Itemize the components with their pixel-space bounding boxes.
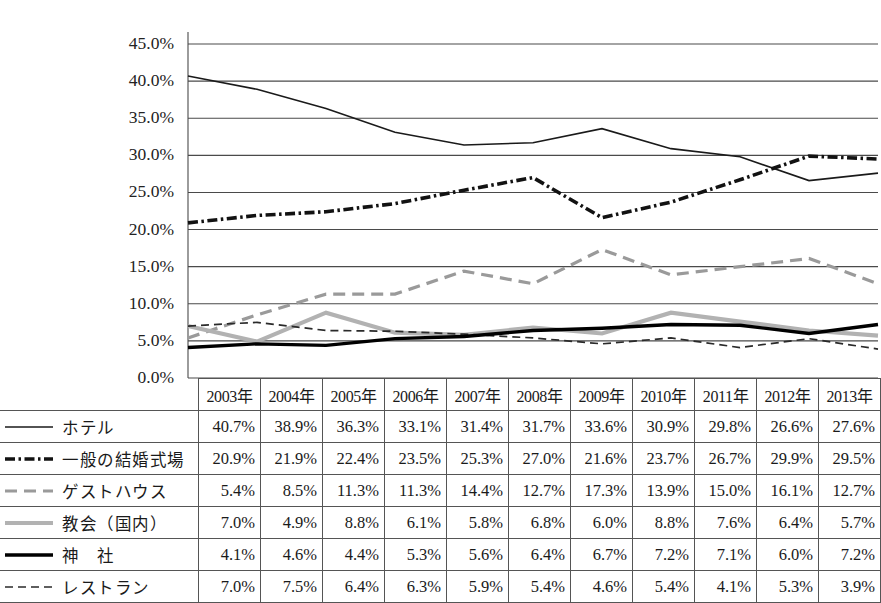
table-row: ホテル40.7%38.9%36.3%33.1%31.4%31.7%33.6%30… — [0, 411, 881, 443]
table-cell: 5.4% — [509, 571, 571, 603]
table-cell: 21.6% — [571, 443, 633, 475]
table-row: ゲストハウス5.4%8.5%11.3%11.3%14.4%12.7%17.3%1… — [0, 475, 881, 507]
legend-line-swatch — [5, 452, 53, 466]
table-cell: 3.9% — [819, 571, 881, 603]
legend-entry-4[interactable]: 神 社 — [0, 539, 199, 571]
table-cell: 33.1% — [385, 411, 447, 443]
table-cell: 36.3% — [323, 411, 385, 443]
table-row: 一般の結婚式場20.9%21.9%22.4%23.5%25.3%27.0%21.… — [0, 443, 881, 475]
table-column-header: 2003年 — [199, 379, 261, 411]
table-cell: 7.5% — [261, 571, 323, 603]
legend-label: 神 社 — [62, 543, 115, 567]
table-cell: 33.6% — [571, 411, 633, 443]
legend-entry-1[interactable]: 一般の結婚式場 — [0, 443, 199, 475]
table-cell: 38.9% — [261, 411, 323, 443]
table-cell: 5.9% — [447, 571, 509, 603]
table-header-row: 2003年2004年2005年2006年2007年2008年2009年2010年… — [0, 379, 881, 411]
table-cell: 6.3% — [385, 571, 447, 603]
table-cell: 16.1% — [757, 475, 819, 507]
table-cell: 26.7% — [695, 443, 757, 475]
legend-line-swatch — [5, 516, 53, 530]
table-cell: 11.3% — [385, 475, 447, 507]
table-column-header: 2005年 — [323, 379, 385, 411]
legend-entry-3[interactable]: 教会（国内） — [0, 507, 199, 539]
table-cell: 25.3% — [447, 443, 509, 475]
table-cell: 4.4% — [323, 539, 385, 571]
table-cell: 8.8% — [323, 507, 385, 539]
table-column-header: 2013年 — [819, 379, 881, 411]
table-cell: 23.5% — [385, 443, 447, 475]
table-cell: 7.6% — [695, 507, 757, 539]
table-cell: 21.9% — [261, 443, 323, 475]
line-chart-plot-area: 45.0%40.0%35.0%30.0%25.0%20.0%15.0%10.0%… — [0, 0, 881, 380]
table-cell: 6.8% — [509, 507, 571, 539]
legend-line-swatch — [5, 548, 53, 562]
table-cell: 17.3% — [571, 475, 633, 507]
table-corner-cell — [0, 379, 199, 411]
table-row: レストラン7.0%7.5%6.4%6.3%5.9%5.4%4.6%5.4%4.1… — [0, 571, 881, 603]
table-column-header: 2004年 — [261, 379, 323, 411]
legend-label: 一般の結婚式場 — [62, 447, 185, 471]
table-cell: 29.5% — [819, 443, 881, 475]
table-column-header: 2009年 — [571, 379, 633, 411]
table-cell: 14.4% — [447, 475, 509, 507]
table-cell: 5.3% — [385, 539, 447, 571]
table-column-header: 2010年 — [633, 379, 695, 411]
table-cell: 7.2% — [633, 539, 695, 571]
table-cell: 5.8% — [447, 507, 509, 539]
table-cell: 5.7% — [819, 507, 881, 539]
legend-label: 教会（国内） — [62, 511, 167, 535]
table-cell: 40.7% — [199, 411, 261, 443]
table-cell: 6.0% — [571, 507, 633, 539]
table-cell: 7.2% — [819, 539, 881, 571]
table-cell: 30.9% — [633, 411, 695, 443]
legend-label: ゲストハウス — [62, 479, 167, 503]
table-cell: 5.4% — [633, 571, 695, 603]
chart-root: 45.0%40.0%35.0%30.0%25.0%20.0%15.0%10.0%… — [0, 0, 881, 603]
chart-svg — [0, 0, 881, 380]
legend-line-swatch — [5, 484, 53, 498]
legend-entry-2[interactable]: ゲストハウス — [0, 475, 199, 507]
table-cell: 6.7% — [571, 539, 633, 571]
table-cell: 29.8% — [695, 411, 757, 443]
table-cell: 4.6% — [571, 571, 633, 603]
table-cell: 26.6% — [757, 411, 819, 443]
table-cell: 6.4% — [757, 507, 819, 539]
legend-label: ホテル — [62, 415, 115, 439]
table-cell: 4.1% — [695, 571, 757, 603]
table-cell: 31.4% — [447, 411, 509, 443]
table-cell: 15.0% — [695, 475, 757, 507]
table-cell: 4.1% — [199, 539, 261, 571]
table-cell: 27.0% — [509, 443, 571, 475]
series-line-0 — [188, 76, 878, 181]
table-cell: 7.0% — [199, 571, 261, 603]
table-column-header: 2007年 — [447, 379, 509, 411]
table-cell: 8.5% — [261, 475, 323, 507]
table-cell: 5.6% — [447, 539, 509, 571]
table-cell: 6.0% — [757, 539, 819, 571]
table-cell: 8.8% — [633, 507, 695, 539]
legend-line-swatch — [5, 580, 53, 594]
table-cell: 5.3% — [757, 571, 819, 603]
table-cell: 22.4% — [323, 443, 385, 475]
table-cell: 7.0% — [199, 507, 261, 539]
table-cell: 6.4% — [509, 539, 571, 571]
table-column-header: 2006年 — [385, 379, 447, 411]
table-column-header: 2012年 — [757, 379, 819, 411]
table-row: 教会（国内）7.0%4.9%8.8%6.1%5.8%6.8%6.0%8.8%7.… — [0, 507, 881, 539]
table-cell: 4.9% — [261, 507, 323, 539]
table-cell: 23.7% — [633, 443, 695, 475]
table-cell: 12.7% — [819, 475, 881, 507]
legend-entry-0[interactable]: ホテル — [0, 411, 199, 443]
table-cell: 27.6% — [819, 411, 881, 443]
table-cell: 5.4% — [199, 475, 261, 507]
table-cell: 31.7% — [509, 411, 571, 443]
series-line-1 — [188, 156, 878, 223]
table-cell: 6.4% — [323, 571, 385, 603]
table-column-header: 2011年 — [695, 379, 757, 411]
legend-entry-5[interactable]: レストラン — [0, 571, 199, 603]
table-row: 神 社4.1%4.6%4.4%5.3%5.6%6.4%6.7%7.2%7.1%6… — [0, 539, 881, 571]
table-cell: 29.9% — [757, 443, 819, 475]
table-column-header: 2008年 — [509, 379, 571, 411]
table-cell: 4.6% — [261, 539, 323, 571]
